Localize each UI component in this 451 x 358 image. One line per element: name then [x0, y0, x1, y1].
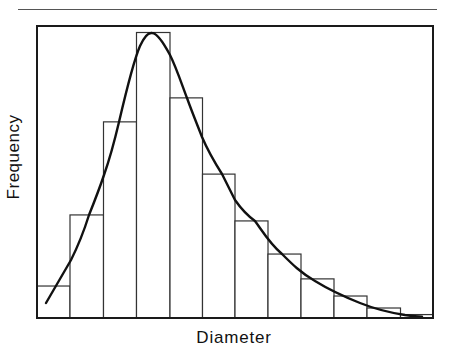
x-axis-label: Diameter: [196, 328, 271, 348]
histogram-chart: [0, 0, 451, 358]
y-axis-label: Frequency: [4, 115, 24, 200]
histogram-bar: [137, 33, 171, 319]
histogram-bar: [268, 254, 301, 318]
histogram-bar: [301, 279, 334, 318]
histogram-bar: [170, 98, 203, 318]
histogram-bar: [104, 122, 137, 318]
histogram-bar: [235, 221, 268, 318]
histogram-bars: [37, 33, 433, 319]
histogram-bar: [203, 174, 236, 318]
histogram-bar: [70, 215, 104, 318]
